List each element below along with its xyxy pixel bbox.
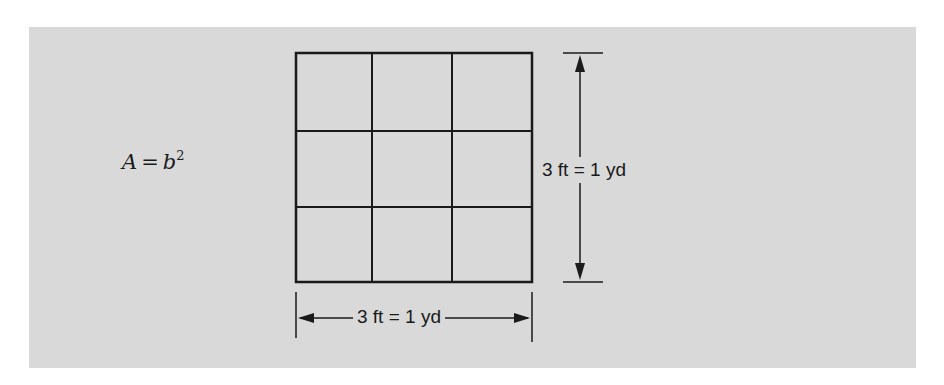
right-dimension-label: 3 ft = 1 yd [542,157,626,183]
square-outline [296,53,532,282]
arrowhead-up-icon [575,55,585,72]
square-diagram [0,0,944,385]
arrowhead-down-icon [575,263,585,280]
area-formula: A=b2 [122,148,185,174]
formula-base: b [163,150,176,174]
formula-exponent: 2 [176,148,184,163]
arrowhead-right-icon [514,313,530,323]
formula-equals: = [141,150,159,174]
arrowhead-left-icon [298,313,314,323]
formula-lhs: A [122,150,137,174]
bottom-dimension-label: 3 ft = 1 yd [353,306,445,328]
